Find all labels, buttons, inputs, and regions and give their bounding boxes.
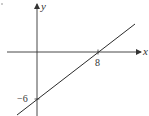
y-axis-label: y <box>40 0 46 12</box>
coordinate-plot: y x 8 −6 <box>0 0 149 116</box>
y-intercept-label: −6 <box>17 93 28 104</box>
data-line <box>17 24 135 115</box>
corner-dot <box>1 3 3 5</box>
x-intercept-label: 8 <box>95 57 100 68</box>
x-axis-label: x <box>142 45 148 57</box>
